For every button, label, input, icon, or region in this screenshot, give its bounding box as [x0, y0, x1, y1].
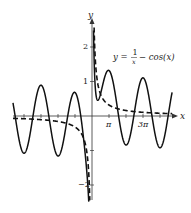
eq-lhs: y = [112, 52, 128, 62]
eq-denominator: x [132, 58, 136, 66]
tick-label-pi: π [105, 120, 112, 129]
x-axis-arrow-icon [172, 114, 178, 119]
tick-label-neg2: −2 [78, 180, 90, 189]
function-plot: y x 2 1 −2 π 3π y = 1 x − cos(x) [0, 0, 191, 213]
eq-numerator: 1 [133, 48, 138, 57]
tick-label-3pi: 3π [138, 120, 149, 129]
x-axis-label: x [180, 111, 185, 121]
tick-label-1: 1 [83, 77, 88, 86]
tick-label-2: 2 [83, 42, 88, 51]
equation-annotation: y = 1 x − cos(x) [112, 48, 175, 66]
y-axis-label: y [87, 10, 94, 20]
eq-rhs: − cos(x) [139, 52, 175, 62]
axes [13, 18, 178, 200]
